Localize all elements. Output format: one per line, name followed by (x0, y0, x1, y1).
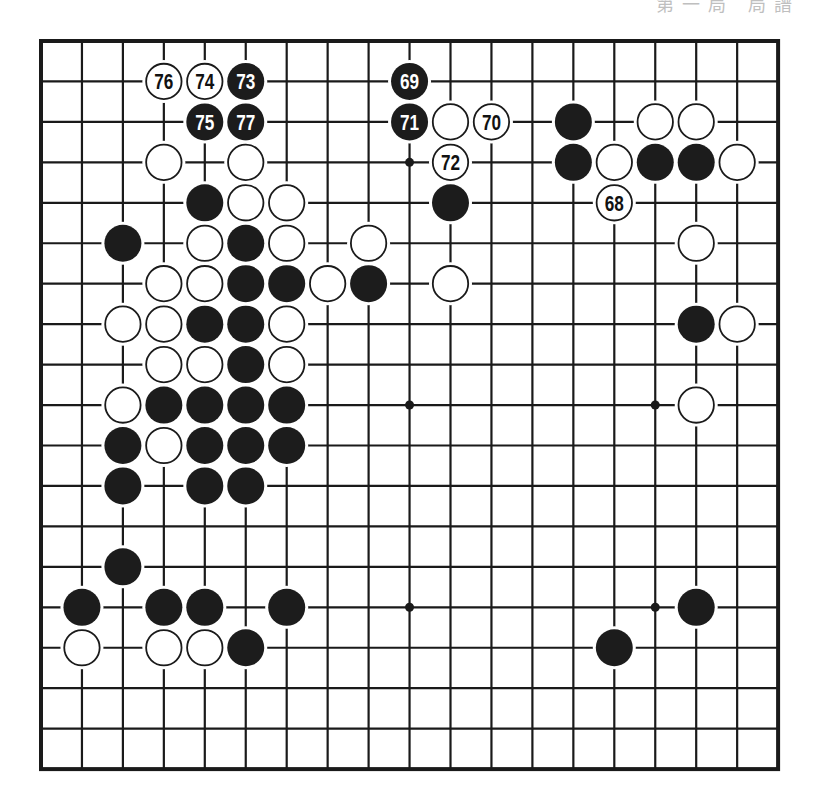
black-stone (183, 464, 226, 507)
white-stone (183, 343, 226, 386)
black-stone-icon (104, 427, 141, 464)
move-number: 72 (441, 150, 460, 175)
black-stone (183, 303, 226, 346)
black-stone (60, 586, 103, 629)
black-stone-icon (227, 346, 264, 383)
star-point-icon (651, 603, 660, 612)
white-stone-icon (433, 104, 468, 139)
white-stone-icon (269, 347, 304, 382)
white-stone: 74 (183, 60, 226, 103)
white-stone-icon (187, 266, 222, 301)
white-stone-icon (679, 104, 714, 139)
black-stone-icon (555, 144, 592, 181)
white-stone-icon (187, 226, 222, 261)
black-stone: 75 (183, 100, 226, 143)
black-stone (593, 626, 636, 669)
black-stone-icon (186, 184, 223, 221)
white-stone (634, 100, 677, 143)
white-stone-icon (269, 226, 304, 261)
white-stone: 76 (142, 60, 185, 103)
black-stone (675, 303, 718, 346)
black-stone (265, 586, 308, 629)
black-stone-icon (268, 265, 305, 302)
move-number: 75 (195, 110, 214, 135)
black-stone-icon (227, 306, 264, 343)
white-stone (265, 222, 308, 265)
black-stone-icon (145, 589, 182, 626)
white-stone-icon (638, 104, 673, 139)
white-stone (142, 424, 185, 467)
black-stone (265, 384, 308, 427)
white-stone (183, 626, 226, 669)
white-stone (142, 262, 185, 305)
white-stone (675, 384, 718, 427)
star-point-icon (405, 401, 414, 410)
white-stone-icon (146, 266, 181, 301)
star-point-icon (405, 603, 414, 612)
black-stone-icon (227, 467, 264, 504)
black-stone: 71 (388, 100, 431, 143)
black-stone-icon (555, 103, 592, 140)
move-number: 71 (400, 110, 419, 135)
black-stone (101, 424, 144, 467)
black-stone-icon (186, 306, 223, 343)
white-stone (265, 181, 308, 224)
white-stone (306, 262, 349, 305)
black-stone-icon (104, 548, 141, 585)
black-stone (183, 384, 226, 427)
white-stone-icon (679, 226, 714, 261)
white-stone (183, 222, 226, 265)
white-stone (265, 303, 308, 346)
white-stone (429, 100, 472, 143)
white-stone (142, 141, 185, 184)
black-stone-icon (63, 589, 100, 626)
white-stone-icon (146, 306, 181, 341)
black-stone (224, 222, 267, 265)
black-stone-icon (268, 387, 305, 424)
white-stone (593, 141, 636, 184)
white-stone-icon (228, 185, 263, 220)
black-stone (265, 262, 308, 305)
white-stone: 70 (470, 100, 513, 143)
white-stone-icon (146, 428, 181, 463)
white-stone (101, 303, 144, 346)
black-stone-icon (104, 225, 141, 262)
black-stone (101, 464, 144, 507)
move-number: 74 (195, 69, 214, 94)
white-stone-icon (351, 226, 386, 261)
black-stone-icon (104, 467, 141, 504)
black-stone (552, 100, 595, 143)
black-stone-icon (227, 629, 264, 666)
star-point-icon (405, 158, 414, 167)
white-stone (142, 303, 185, 346)
black-stone-icon (678, 144, 715, 181)
black-stone: 69 (388, 60, 431, 103)
move-number: 70 (482, 110, 501, 135)
black-stone (675, 141, 718, 184)
black-stone (142, 586, 185, 629)
black-stone-icon (678, 306, 715, 343)
black-stone: 73 (224, 60, 267, 103)
black-stone (265, 424, 308, 467)
white-stone (224, 181, 267, 224)
black-stone (224, 303, 267, 346)
white-stone-icon (597, 145, 632, 180)
move-number: 68 (605, 191, 624, 216)
black-stone-icon (186, 387, 223, 424)
white-stone-icon (269, 306, 304, 341)
black-stone (675, 586, 718, 629)
black-stone-icon (227, 265, 264, 302)
black-stone (224, 424, 267, 467)
star-point-icon (651, 401, 660, 410)
black-stone-icon (227, 225, 264, 262)
white-stone (142, 343, 185, 386)
black-stone (101, 222, 144, 265)
black-stone-icon (350, 265, 387, 302)
black-stone: 77 (224, 100, 267, 143)
white-stone-icon (719, 145, 754, 180)
black-stone-icon (186, 427, 223, 464)
white-stone (429, 262, 472, 305)
black-stone (101, 545, 144, 588)
white-stone-icon (146, 630, 181, 665)
white-stone (265, 343, 308, 386)
